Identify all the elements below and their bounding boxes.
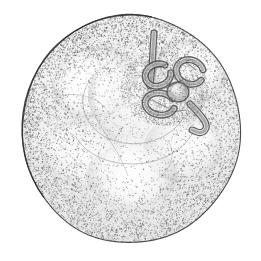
- illustration-figure: Stipple illustration of a globular fruit…: [0, 0, 261, 261]
- stipple-illustration-canvas: [0, 0, 261, 261]
